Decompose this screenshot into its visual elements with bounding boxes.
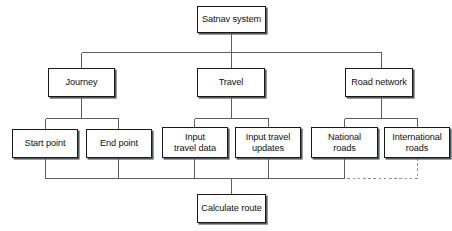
node-satnav-system-label: Satnav system bbox=[200, 14, 263, 25]
node-travel-label: Travel bbox=[217, 77, 246, 88]
node-end-point-label: End point bbox=[98, 138, 140, 149]
node-journey[interactable]: Journey bbox=[48, 68, 115, 97]
node-input-travel-data-label: Input travel data bbox=[172, 132, 218, 153]
node-input-travel-updates-label: Input travel updates bbox=[244, 132, 292, 153]
node-travel[interactable]: Travel bbox=[197, 68, 265, 97]
node-international-roads-label: International roads bbox=[390, 132, 443, 153]
node-start-point-label: Start point bbox=[23, 138, 68, 149]
node-end-point[interactable]: End point bbox=[86, 129, 152, 158]
node-journey-label: Journey bbox=[64, 77, 100, 88]
node-calculate-route[interactable]: Calculate route bbox=[197, 194, 266, 223]
node-international-roads[interactable]: International roads bbox=[384, 127, 450, 158]
node-national-roads-label: National roads bbox=[326, 132, 363, 153]
satnav-decomposition-diagram: Satnav system Journey Travel Road networ… bbox=[0, 0, 452, 231]
node-input-travel-data[interactable]: Input travel data bbox=[162, 127, 228, 158]
node-road-network-label: Road network bbox=[349, 77, 409, 88]
node-input-travel-updates[interactable]: Input travel updates bbox=[235, 127, 301, 158]
node-national-roads[interactable]: National roads bbox=[311, 127, 378, 158]
node-satnav-system[interactable]: Satnav system bbox=[197, 6, 266, 33]
node-road-network[interactable]: Road network bbox=[345, 68, 413, 97]
node-calculate-route-label: Calculate route bbox=[199, 203, 263, 214]
node-start-point[interactable]: Start point bbox=[12, 129, 78, 158]
